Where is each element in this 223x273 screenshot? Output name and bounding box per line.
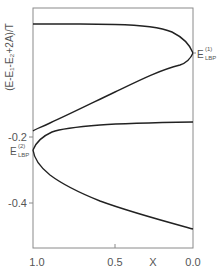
- x-tick-label-05: 0.5: [107, 256, 122, 268]
- x-tick-label-0: 0.0: [185, 256, 200, 268]
- curve-lower-top: [33, 122, 193, 150]
- annot2-sup: (2): [18, 143, 25, 149]
- curve-lower-bottom: [33, 150, 193, 229]
- plot-frame: [33, 8, 193, 248]
- annot1-sub: LBP: [205, 55, 216, 61]
- x-axis-title: X: [149, 256, 157, 268]
- curve-upper-top: [33, 24, 193, 53]
- chart: -0.2 -0.4 1.0 0.5 X 0.0 (E-E₁-E₂+2A)/T E…: [0, 0, 223, 273]
- curve-upper-bottom: [33, 53, 193, 131]
- y-tick-label-m02: -0.2: [8, 131, 27, 143]
- x-tick-label-1: 1.0: [29, 256, 44, 268]
- y-axis-title: (E-E₁-E₂+2A)/T: [4, 23, 15, 91]
- annot2-sub: LBP: [18, 152, 29, 158]
- annot2-main: E: [10, 146, 17, 157]
- y-tick-label-m04: -0.4: [8, 197, 27, 209]
- annot1-main: E: [197, 49, 204, 60]
- annot1-sup: (1): [205, 46, 212, 52]
